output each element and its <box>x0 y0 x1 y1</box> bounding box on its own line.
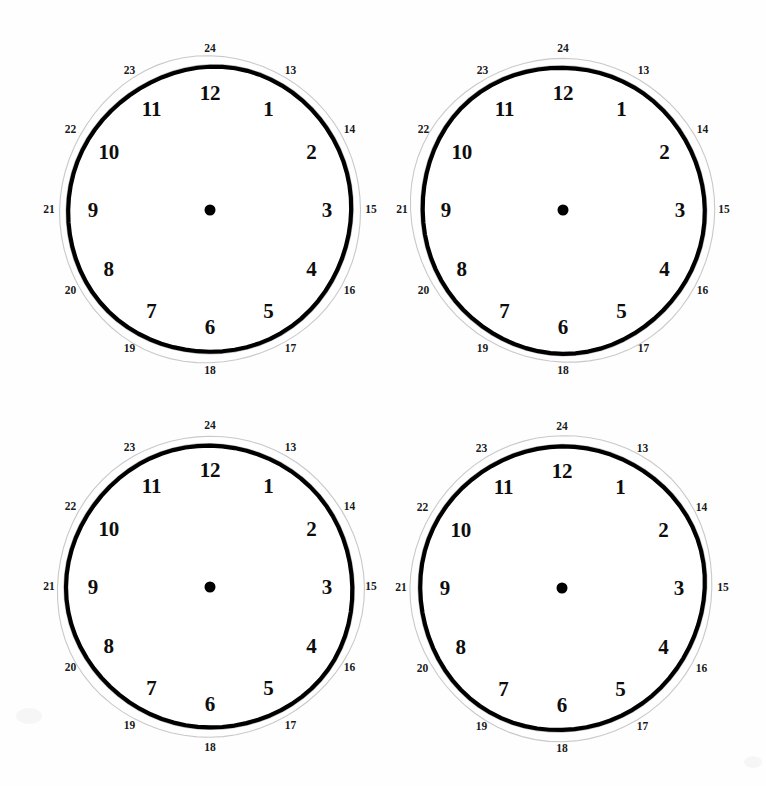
hour-numeral-1: 1 <box>263 98 273 119</box>
outer-hour-numeral-14: 14 <box>697 124 709 136</box>
hour-numeral-10: 10 <box>450 519 471 540</box>
hour-numeral-5: 5 <box>616 301 626 322</box>
outer-hour-numeral-18: 18 <box>204 742 216 754</box>
hour-numeral-11: 11 <box>142 98 161 119</box>
hour-numeral-6: 6 <box>205 317 215 338</box>
hour-numeral-9: 9 <box>441 200 451 221</box>
hour-numeral-6: 6 <box>558 317 568 338</box>
hour-numeral-1: 1 <box>616 98 626 119</box>
hour-numeral-12: 12 <box>552 461 573 482</box>
clock-bottom-left[interactable]: 123456789101112131415161718192021222324 <box>40 417 380 757</box>
hour-numeral-5: 5 <box>615 679 625 700</box>
hour-numeral-8: 8 <box>104 635 114 656</box>
outer-hour-numeral-24: 24 <box>556 421 568 433</box>
outer-hour-numeral-23: 23 <box>477 65 489 77</box>
outer-hour-numeral-15: 15 <box>365 581 377 593</box>
hour-numeral-6: 6 <box>557 695 567 716</box>
outer-hour-numeral-17: 17 <box>285 344 297 356</box>
clock-bottom-right[interactable]: 123456789101112131415161718192021222324 <box>392 418 732 758</box>
outer-hour-numeral-13: 13 <box>285 65 297 77</box>
hour-numeral-2: 2 <box>659 141 669 162</box>
hour-numeral-10: 10 <box>451 141 472 162</box>
outer-hour-numeral-22: 22 <box>65 501 77 513</box>
outer-hour-numeral-24: 24 <box>557 43 569 55</box>
hour-numeral-12: 12 <box>553 83 574 104</box>
hour-numeral-8: 8 <box>456 636 466 657</box>
paper-smudge <box>744 756 762 768</box>
outer-hour-numeral-20: 20 <box>65 285 77 297</box>
outer-hour-numeral-13: 13 <box>637 443 649 455</box>
outer-hour-numeral-23: 23 <box>124 442 136 454</box>
hour-numeral-2: 2 <box>306 141 316 162</box>
outer-hour-numeral-19: 19 <box>476 722 488 734</box>
hour-numeral-11: 11 <box>142 475 161 496</box>
clock-top-left[interactable]: 123456789101112131415161718192021222324 <box>40 40 380 380</box>
outer-hour-numeral-15: 15 <box>365 204 377 216</box>
hour-numeral-3: 3 <box>675 200 685 221</box>
hour-numeral-2: 2 <box>306 518 316 539</box>
hour-numeral-11: 11 <box>494 476 513 497</box>
hour-numeral-1: 1 <box>615 476 625 497</box>
outer-hour-numeral-13: 13 <box>638 65 650 77</box>
hour-numeral-10: 10 <box>98 141 119 162</box>
outer-hour-numeral-20: 20 <box>417 663 429 675</box>
hour-numeral-4: 4 <box>306 258 316 279</box>
hour-numeral-7: 7 <box>146 678 156 699</box>
outer-hour-numeral-17: 17 <box>638 344 650 356</box>
hour-numeral-12: 12 <box>200 83 221 104</box>
hour-numeral-10: 10 <box>98 518 119 539</box>
hour-numeral-11: 11 <box>495 98 514 119</box>
outer-hour-numeral-15: 15 <box>718 204 730 216</box>
hour-numeral-3: 3 <box>322 577 332 598</box>
hour-numeral-5: 5 <box>263 301 273 322</box>
outer-hour-numeral-20: 20 <box>65 662 77 674</box>
outer-hour-numeral-21: 21 <box>396 204 408 216</box>
hour-numeral-7: 7 <box>146 301 156 322</box>
outer-hour-numeral-16: 16 <box>344 662 356 674</box>
hour-numeral-4: 4 <box>658 636 668 657</box>
outer-hour-numeral-13: 13 <box>285 442 297 454</box>
hour-numeral-8: 8 <box>457 258 467 279</box>
outer-hour-numeral-23: 23 <box>476 443 488 455</box>
outer-hour-numeral-22: 22 <box>417 502 429 514</box>
hour-numeral-7: 7 <box>498 679 508 700</box>
outer-hour-numeral-24: 24 <box>204 420 216 432</box>
clock-center-dot <box>557 583 568 594</box>
hour-numeral-1: 1 <box>263 475 273 496</box>
outer-hour-numeral-16: 16 <box>344 285 356 297</box>
outer-hour-numeral-17: 17 <box>285 721 297 733</box>
hour-numeral-4: 4 <box>659 258 669 279</box>
outer-hour-numeral-18: 18 <box>556 743 568 755</box>
outer-hour-numeral-22: 22 <box>65 124 77 136</box>
hour-numeral-3: 3 <box>674 578 684 599</box>
outer-hour-numeral-19: 19 <box>477 344 489 356</box>
hour-numeral-9: 9 <box>88 200 98 221</box>
outer-hour-numeral-23: 23 <box>124 65 136 77</box>
outer-hour-numeral-14: 14 <box>696 502 708 514</box>
hour-numeral-7: 7 <box>499 301 509 322</box>
outer-hour-numeral-15: 15 <box>717 582 729 594</box>
hour-numeral-2: 2 <box>658 519 668 540</box>
outer-hour-numeral-22: 22 <box>418 124 430 136</box>
hour-numeral-3: 3 <box>322 200 332 221</box>
outer-hour-numeral-21: 21 <box>43 581 55 593</box>
outer-hour-numeral-14: 14 <box>344 124 356 136</box>
clock-top-right[interactable]: 123456789101112131415161718192021222324 <box>393 40 733 380</box>
clock-center-dot <box>205 205 216 216</box>
outer-hour-numeral-18: 18 <box>204 365 216 377</box>
outer-hour-numeral-16: 16 <box>697 285 709 297</box>
hour-numeral-8: 8 <box>104 258 114 279</box>
outer-hour-numeral-18: 18 <box>557 365 569 377</box>
hour-numeral-9: 9 <box>440 578 450 599</box>
outer-hour-numeral-17: 17 <box>637 722 649 734</box>
clock-center-dot <box>558 205 569 216</box>
worksheet-sheet: 1234567891011121314151617181920212223241… <box>0 0 766 786</box>
outer-hour-numeral-24: 24 <box>204 43 216 55</box>
hour-numeral-12: 12 <box>200 460 221 481</box>
hour-numeral-9: 9 <box>88 577 98 598</box>
outer-hour-numeral-20: 20 <box>418 285 430 297</box>
hour-numeral-6: 6 <box>205 694 215 715</box>
clock-center-dot <box>205 582 216 593</box>
hour-numeral-5: 5 <box>263 678 273 699</box>
outer-hour-numeral-14: 14 <box>344 501 356 513</box>
